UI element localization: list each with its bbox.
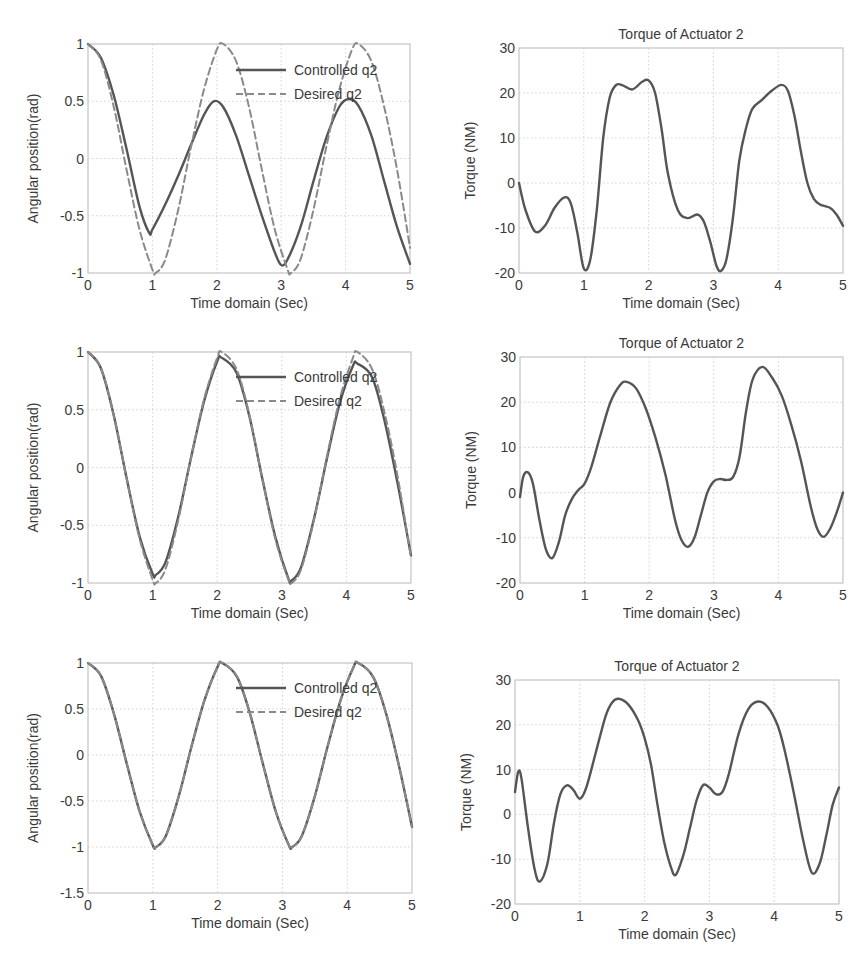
y-tick-labels: -1-0.500.51 [60, 344, 84, 591]
y-tick-label: 0.5 [65, 701, 85, 717]
y-tick-label: -1 [72, 575, 85, 591]
x-tick-label: 0 [84, 587, 92, 603]
x-tick-label: 0 [84, 897, 92, 913]
figure-canvas: 012345-1-0.500.51Time domain (Sec)Angula… [0, 0, 866, 969]
y-tick-label: 0 [503, 806, 511, 822]
x-tick-label: 4 [775, 587, 783, 603]
y-tick-label: 0.5 [65, 93, 85, 109]
x-tick-label: 4 [342, 277, 350, 293]
x-axis-label: Time domain (Sec) [191, 605, 309, 621]
x-tick-labels: 012345 [515, 277, 847, 293]
y-tick-label: 1 [76, 36, 84, 52]
x-tick-label: 4 [774, 277, 782, 293]
y-tick-label: -1 [72, 839, 85, 855]
legend-label: Desired q2 [294, 704, 362, 720]
y-tick-label: -10 [496, 530, 516, 546]
y-tick-labels: -20-100102030 [491, 672, 511, 912]
legend-label: Desired q2 [294, 86, 362, 102]
x-tick-label: 0 [84, 277, 92, 293]
x-tick-label: 3 [710, 587, 718, 603]
x-axis-label: Time domain (Sec) [622, 295, 740, 311]
chart-title: Torque of Actuator 2 [619, 335, 745, 351]
plot-area [520, 357, 843, 583]
subplot-grid: 012345-1-0.500.51Time domain (Sec)Angula… [0, 0, 866, 969]
subplot-p6: 012345-20-100102030Time domain (Sec)Torq… [458, 658, 843, 942]
x-tick-label: 5 [406, 277, 414, 293]
y-tick-label: 30 [499, 40, 515, 56]
x-tick-labels: 012345 [84, 587, 415, 603]
subplot-p4: 012345-20-100102030Time domain (Sec)Torq… [463, 335, 847, 621]
chart-title: Torque of Actuator 2 [614, 658, 740, 674]
y-axis-label: Torque (NM) [458, 753, 474, 831]
y-tick-label: -0.5 [60, 793, 84, 809]
x-tick-label: 5 [407, 587, 415, 603]
x-tick-label: 4 [770, 908, 778, 924]
plot-area [88, 663, 412, 893]
y-tick-label: 20 [495, 717, 511, 733]
plot-area [519, 48, 843, 273]
y-axis-label: Torque (NM) [463, 431, 479, 509]
x-tick-label: 2 [641, 908, 649, 924]
y-axis-label: Angular position(rad) [25, 94, 41, 224]
x-tick-labels: 012345 [84, 897, 416, 913]
subplot-p5: 012345-1.5-1-0.500.51Time domain (Sec)An… [25, 655, 416, 931]
subplot-p1: 012345-1-0.500.51Time domain (Sec)Angula… [25, 36, 414, 311]
y-tick-label: -10 [491, 851, 511, 867]
y-tick-label: 0 [76, 151, 84, 167]
x-tick-label: 3 [706, 908, 714, 924]
y-tick-label: 10 [495, 762, 511, 778]
x-axis-label: Time domain (Sec) [623, 605, 741, 621]
x-tick-label: 3 [710, 277, 718, 293]
legend-label: Controlled q2 [294, 62, 377, 78]
x-tick-label: 2 [213, 277, 221, 293]
x-tick-label: 4 [343, 587, 351, 603]
legend-label: Desired q2 [294, 393, 362, 409]
x-tick-label: 0 [516, 587, 524, 603]
x-tick-label: 2 [645, 277, 653, 293]
x-tick-label: 4 [343, 897, 351, 913]
y-tick-label: 0 [507, 175, 515, 191]
x-tick-label: 5 [839, 277, 847, 293]
legend-label: Controlled q2 [294, 680, 377, 696]
x-axis-label: Time domain (Sec) [190, 295, 308, 311]
y-tick-label: 0.5 [65, 402, 85, 418]
y-tick-label: 10 [500, 439, 516, 455]
x-tick-label: 1 [149, 897, 157, 913]
y-axis-label: Torque (NM) [462, 122, 478, 200]
y-tick-label: -1 [72, 265, 85, 281]
y-tick-label: 20 [499, 85, 515, 101]
y-tick-label: -20 [491, 896, 511, 912]
x-tick-label: 2 [214, 897, 222, 913]
y-tick-label: 30 [500, 349, 516, 365]
subplot-p2: 012345-20-100102030Time domain (Sec)Torq… [462, 26, 847, 311]
x-axis-label: Time domain (Sec) [618, 926, 736, 942]
y-tick-label: 10 [499, 130, 515, 146]
x-tick-label: 2 [645, 587, 653, 603]
y-tick-label: -10 [495, 220, 515, 236]
x-tick-labels: 012345 [511, 908, 843, 924]
x-tick-label: 0 [511, 908, 519, 924]
subplot-p3: 012345-1-0.500.51Time domain (Sec)Angula… [25, 344, 415, 621]
y-tick-labels: -20-100102030 [496, 349, 516, 591]
x-axis-label: Time domain (Sec) [191, 915, 309, 931]
y-tick-label: -20 [495, 265, 515, 281]
y-tick-labels: -20-100102030 [495, 40, 515, 281]
chart-title: Torque of Actuator 2 [618, 26, 744, 42]
x-tick-labels: 012345 [516, 587, 847, 603]
legend-label: Controlled q2 [294, 369, 377, 385]
y-tick-label: 0 [76, 747, 84, 763]
y-axis-label: Angular position(rad) [25, 713, 41, 843]
y-tick-label: 0 [508, 485, 516, 501]
x-tick-label: 3 [277, 277, 285, 293]
y-tick-label: 1 [76, 344, 84, 360]
x-tick-label: 2 [213, 587, 221, 603]
y-tick-label: 20 [500, 394, 516, 410]
y-tick-labels: -1.5-1-0.500.51 [60, 655, 84, 901]
x-tick-label: 3 [279, 897, 287, 913]
x-tick-labels: 012345 [84, 277, 414, 293]
x-tick-label: 1 [149, 277, 157, 293]
y-tick-label: -0.5 [60, 517, 84, 533]
x-tick-label: 5 [835, 908, 843, 924]
x-tick-label: 1 [576, 908, 584, 924]
x-tick-label: 1 [580, 277, 588, 293]
